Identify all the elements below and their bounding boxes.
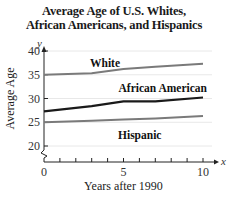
- series-line-african-american: [44, 98, 203, 112]
- series-label-african-american: African American: [119, 82, 208, 94]
- series-label-hispanic: Hispanic: [118, 129, 161, 142]
- x-axis-variable: x: [220, 155, 226, 167]
- axis-break-icon: [41, 150, 47, 162]
- y-axis-title: Average Age: [3, 67, 17, 129]
- x-axis-title: Years after 1990: [84, 179, 163, 193]
- y-tick-label: 30: [28, 92, 40, 106]
- line-chart: 20253035400510yxYears after 1990Average …: [0, 0, 228, 204]
- series-label-white: White: [90, 57, 120, 69]
- x-tick-label: 5: [121, 165, 127, 179]
- x-axis-arrow-icon: [214, 160, 219, 165]
- x-tick-label: 0: [41, 165, 47, 179]
- series-line-hispanic: [44, 116, 203, 122]
- y-tick-label: 20: [28, 139, 40, 153]
- y-tick-label: 35: [28, 68, 40, 82]
- series-line-white: [44, 64, 203, 75]
- x-tick-label: 10: [197, 165, 209, 179]
- y-axis-variable: y: [36, 37, 42, 49]
- y-tick-label: 25: [28, 115, 40, 129]
